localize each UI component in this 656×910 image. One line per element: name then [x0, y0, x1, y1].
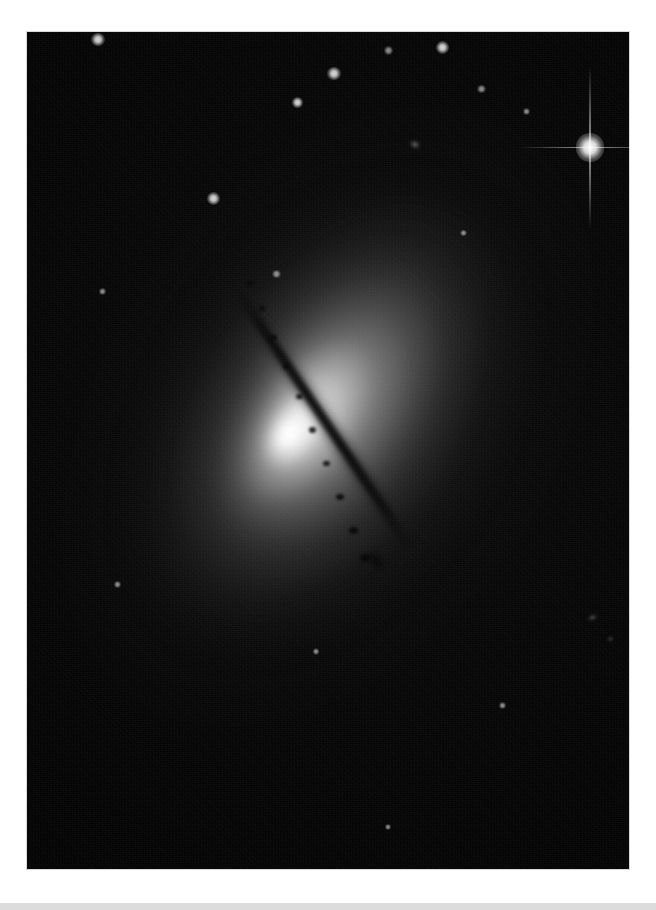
- star-lower-left: [114, 581, 121, 588]
- star-upper-right-b: [384, 46, 393, 55]
- star-upper-right-c: [477, 85, 486, 94]
- dust-knot: [309, 427, 316, 433]
- diffraction-spike-horizontal: [518, 147, 629, 148]
- dust-knot: [360, 554, 370, 562]
- diffraction-spike-vertical: [589, 65, 590, 229]
- dust-knot: [323, 461, 330, 466]
- dust-knot: [247, 281, 254, 286]
- star-upper-middle: [327, 67, 340, 80]
- star-mid-right: [460, 230, 467, 237]
- dust-knot: [259, 306, 265, 311]
- star-lower-right: [499, 702, 506, 709]
- dust-knot: [336, 494, 344, 500]
- background-galaxy-right-mid: [607, 637, 614, 641]
- page-root: Edge-on lenticular galaxy with dark dust…: [0, 0, 656, 910]
- page-footer-bar: [0, 903, 656, 910]
- star-right-upper: [523, 108, 530, 115]
- star-lower-center: [313, 648, 320, 655]
- dust-knot: [296, 394, 303, 399]
- astronomy-photograph: Edge-on lenticular galaxy with dark dust…: [27, 32, 629, 869]
- dust-knot: [349, 527, 358, 534]
- star-left-halo: [99, 288, 106, 295]
- star-upper-left: [91, 33, 104, 46]
